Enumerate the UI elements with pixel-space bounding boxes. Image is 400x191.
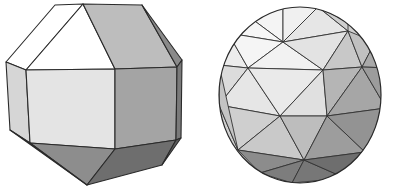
geodesic-sphere-figure xyxy=(200,0,400,191)
face-front-square xyxy=(26,69,115,149)
rhombicuboctahedron-drawing xyxy=(0,0,200,191)
sphere-facets xyxy=(219,6,391,183)
rhombicuboctahedron-figure xyxy=(0,0,200,191)
face-right-sliver xyxy=(176,60,182,140)
face-right-square xyxy=(115,67,177,149)
geodesic-sphere-drawing xyxy=(200,0,400,191)
